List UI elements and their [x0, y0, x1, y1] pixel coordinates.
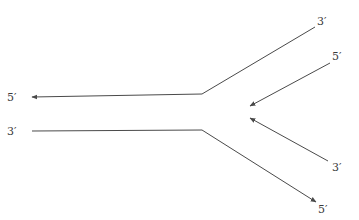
parental-top-right-label: 3′: [317, 15, 327, 28]
daughter-bottom-right-label: 3′: [332, 161, 342, 174]
daughter-top-strand: 5′: [250, 50, 342, 106]
daughter-bottom-line: [250, 118, 328, 161]
parental-bottom-strand: 3′ 5′: [7, 125, 328, 216]
daughter-top-right-label: 5′: [332, 50, 342, 63]
daughter-top-line: [250, 63, 330, 106]
replication-fork-diagram: 5′ 3′ 3′ 5′ 5′ 3′: [0, 0, 359, 220]
parental-top-left-label: 5′: [7, 91, 17, 104]
daughter-bottom-strand: 3′: [250, 118, 342, 174]
parental-bottom-line: [32, 130, 316, 202]
parental-bottom-right-label: 5′: [318, 203, 328, 216]
parental-top-line: [32, 27, 315, 97]
parental-bottom-left-label: 3′: [7, 125, 17, 138]
